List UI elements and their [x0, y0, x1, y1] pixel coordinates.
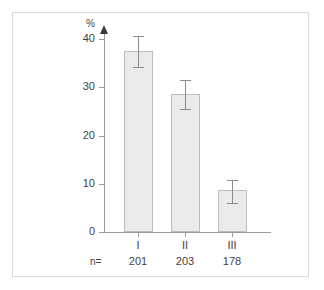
y-tick-label-30: 30 [71, 81, 95, 92]
y-axis-line [104, 33, 105, 232]
y-tick-30 [99, 87, 105, 88]
x-axis-label-I: I [118, 239, 158, 251]
error-bar-cap-bottom-I [133, 67, 144, 68]
sample-size-I: 201 [118, 255, 158, 267]
bar-category-I[interactable] [124, 51, 153, 232]
sample-size-III: 178 [212, 255, 252, 267]
y-tick-label-0-wrap: 0 [71, 226, 95, 237]
error-bar-line-I [138, 36, 139, 67]
error-bar-cap-top-II [180, 80, 191, 81]
y-tick-label-20-wrap: 20 [71, 130, 95, 141]
error-bar-line-II [185, 80, 186, 109]
plot-area: % 40 30 20 10 0 [0, 0, 324, 290]
error-bar-line-III [232, 180, 233, 203]
y-tick-label-0: 0 [71, 226, 95, 237]
error-bar-cap-bottom-II [180, 109, 191, 110]
error-bar-cap-bottom-III [227, 203, 238, 204]
y-tick-20 [99, 136, 105, 137]
x-axis-label-III: III [212, 239, 252, 251]
y-tick-40 [99, 39, 105, 40]
x-tick-II [185, 233, 186, 237]
x-tick-III [232, 233, 233, 237]
y-tick-label-10: 10 [71, 178, 95, 189]
sample-size-prefix: n= [90, 256, 101, 268]
bar-category-II[interactable] [171, 94, 200, 232]
y-tick-10 [99, 184, 105, 185]
y-tick-label-10-wrap: 10 [71, 178, 95, 189]
y-axis-arrow-icon [100, 25, 108, 34]
chart-figure: % 40 30 20 10 0 [0, 0, 324, 290]
y-axis-title: % [86, 19, 95, 29]
error-bar-cap-top-I [133, 36, 144, 37]
y-tick-label-20: 20 [71, 130, 95, 141]
error-bar-cap-top-III [227, 180, 238, 181]
x-axis-line [104, 232, 271, 233]
x-tick-I [138, 233, 139, 237]
sample-size-II: 203 [165, 255, 205, 267]
x-axis-label-II: II [165, 239, 205, 251]
y-tick-label-30-wrap: 30 [71, 81, 95, 92]
y-tick-label-40-wrap: 40 [71, 33, 95, 44]
y-tick-label-40: 40 [71, 33, 95, 44]
